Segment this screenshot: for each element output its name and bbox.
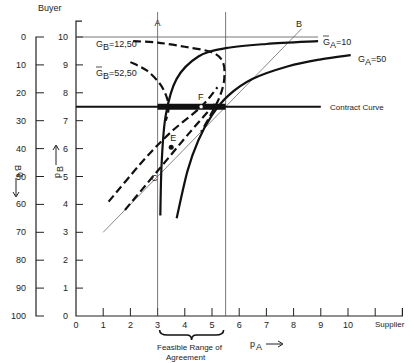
y-inner-title: p [52, 173, 62, 178]
x-tick-label: 9 [318, 320, 323, 330]
label-ga-50: GA=50 [358, 54, 386, 67]
y-outer-tick-label: 0 [21, 32, 26, 42]
y-outer-tick-label: 20 [16, 88, 26, 98]
axes: 0123456789100123456789100102030405060708… [11, 21, 402, 330]
y-outer-tick-label: 70 [16, 227, 26, 237]
x-tick-label: 0 [73, 320, 78, 330]
curve-label-value: =12,50 [109, 39, 137, 49]
arrow-right-icon [266, 341, 283, 347]
y-inner-title-sub: B [55, 166, 65, 172]
point-label-c: C [151, 173, 158, 183]
curve-label-base: G [96, 39, 103, 49]
right-label: Supplier [375, 320, 405, 329]
bargaining-chart: 0123456789100123456789100102030405060708… [0, 0, 414, 363]
x-tick-label: 10 [343, 320, 353, 330]
label-ga-10: GA=10 [323, 36, 351, 50]
x-title: p [250, 339, 255, 349]
x-tick-label: 6 [237, 320, 242, 330]
marks: ABCEF [151, 18, 302, 340]
y-inner-tick-label: 4 [63, 199, 68, 209]
x-tick-label: 5 [209, 320, 214, 330]
contract-curve-label: Contract Curve [330, 103, 384, 112]
curve-g-a-50 [177, 55, 351, 218]
x-tick-label: 7 [264, 320, 269, 330]
curve-dashed-lower-2 [125, 104, 215, 210]
point-e [169, 145, 174, 150]
curve-label-value: =52,50 [109, 68, 137, 78]
x-tick-label: 8 [291, 320, 296, 330]
y-inner-tick-label: 10 [58, 32, 68, 42]
y-outer-tick-label: 40 [16, 144, 26, 154]
y-outer-tick-label: 60 [16, 199, 26, 209]
curve-label-base: G [358, 54, 365, 64]
y-outer-tick-label: 30 [16, 116, 26, 126]
annotation-line-1: Feasible Range of [157, 343, 223, 352]
y-inner-tick-label: 2 [63, 255, 68, 265]
curve-label-value: =10 [336, 37, 351, 47]
curve-label-value: =50 [371, 54, 386, 64]
x-tick-label: 4 [182, 320, 187, 330]
point-label-f: F [198, 92, 204, 102]
label-gb-12-50: GB=12,50 [96, 39, 137, 52]
feasible-range-brace [160, 330, 224, 340]
x-title-sub: A [256, 342, 262, 352]
curve-label-base: G [96, 68, 103, 78]
y-inner-tick-label: 3 [63, 227, 68, 237]
y-inner-tick-label: 0 [63, 311, 68, 321]
x-tick-label: 2 [128, 320, 133, 330]
top-label: Buyer [38, 3, 62, 13]
x-tick-label: 3 [155, 320, 160, 330]
point-label-e: E [170, 133, 176, 143]
y-outer-tick-label: 100 [11, 311, 26, 321]
y-inner-tick-label: 1 [63, 283, 68, 293]
y-outer-tick-label: 90 [16, 283, 26, 293]
y-inner-tick-label: 9 [63, 60, 68, 70]
y-inner-tick-label: 8 [63, 88, 68, 98]
point-label-a: A [155, 18, 161, 28]
curve-label-base: G [323, 37, 330, 47]
annotation-line-2: Agreement [166, 353, 206, 362]
y-outer-title-sub: B [13, 165, 23, 171]
y-outer-tick-label: 10 [16, 60, 26, 70]
point-f [199, 105, 203, 109]
x-tick-label: 1 [101, 320, 106, 330]
arrow-up-icon [53, 145, 59, 165]
y-outer-tick-label: 80 [16, 255, 26, 265]
y-outer-title: q [16, 172, 26, 177]
y-inner-tick-label: 5 [63, 172, 68, 182]
label-gb-52-50: GB=52,50 [96, 67, 137, 81]
axis-frame [76, 21, 402, 316]
y-inner-tick-label: 6 [63, 144, 68, 154]
point-label-b: B [296, 19, 302, 29]
y-inner-tick-label: 7 [63, 116, 68, 126]
